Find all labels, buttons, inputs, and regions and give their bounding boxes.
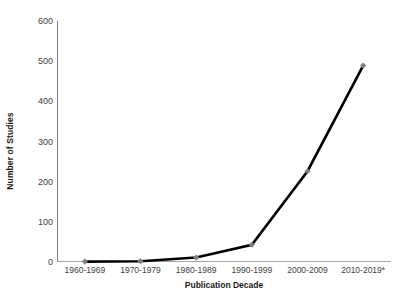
y-tick-label: 500 — [20, 57, 53, 66]
y-axis-title: Number of Studies — [0, 0, 20, 301]
x-axis-tick-labels: 1960-19691970-19791980-19891990-19992000… — [57, 265, 391, 279]
y-axis-tick-labels: 0100200300400500600 — [20, 0, 53, 301]
x-tick-label: 1960-1969 — [65, 265, 106, 275]
x-tick-label: 2010-2019* — [341, 265, 385, 275]
x-tick-label: 1990-1999 — [232, 265, 273, 275]
plot-area — [57, 21, 391, 262]
data-point-marker — [193, 254, 199, 260]
data-point-marker — [82, 258, 88, 264]
x-axis-title: Publication Decade — [57, 280, 391, 290]
data-point-marker — [137, 258, 143, 264]
series-line-number-of-studies — [57, 21, 391, 262]
y-tick-label: 400 — [20, 97, 53, 106]
y-tick-label: 600 — [20, 17, 53, 26]
y-tick-label: 100 — [20, 217, 53, 226]
line-chart: Number of Studies 0100200300400500600 19… — [0, 0, 402, 301]
y-tick-label: 0 — [20, 258, 53, 267]
x-tick-label: 1980-1989 — [176, 265, 217, 275]
x-tick-label: 1970-1979 — [120, 265, 161, 275]
x-tick-label: 2000-2009 — [287, 265, 328, 275]
y-tick-label: 200 — [20, 177, 53, 186]
series-line — [85, 66, 363, 262]
y-tick-label: 300 — [20, 137, 53, 146]
y-axis-title-label: Number of Studies — [5, 112, 15, 189]
